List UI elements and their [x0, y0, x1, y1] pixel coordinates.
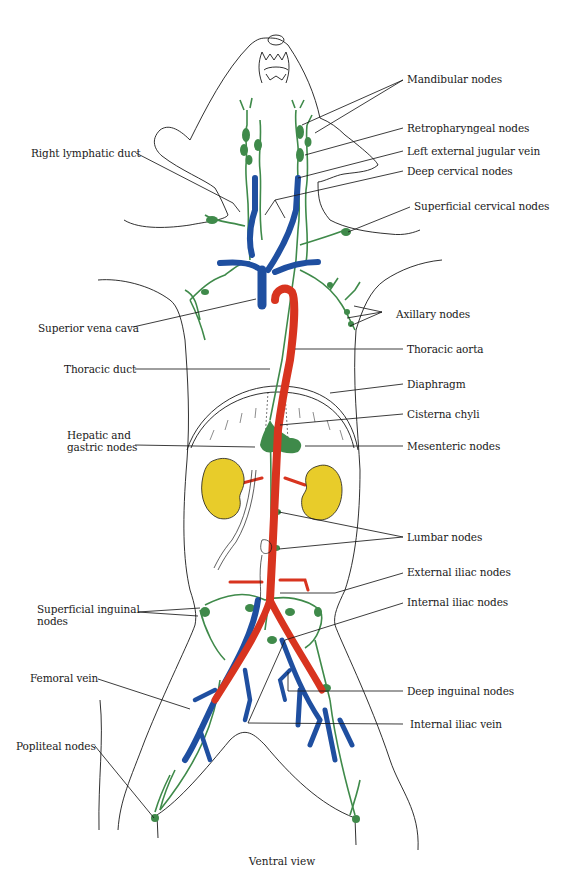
label-popliteal-nodes: Popliteal nodes	[16, 740, 96, 752]
label-superficial-inguinal-nodes-line1: Superficial inguinal	[37, 603, 140, 615]
figure-caption: Ventral view	[0, 855, 564, 867]
label-internal-iliac-vein: Internal iliac vein	[410, 718, 502, 730]
label-lumbar-nodes: Lumbar nodes	[407, 531, 482, 543]
label-deep-cervical-nodes: Deep cervical nodes	[407, 165, 513, 177]
label-retropharyngeal-nodes: Retropharyngeal nodes	[407, 122, 529, 134]
label-superficial-cervical-nodes: Superficial cervical nodes	[414, 200, 549, 212]
label-mandibular-nodes: Mandibular nodes	[407, 73, 502, 85]
label-femoral-vein: Femoral vein	[30, 672, 98, 684]
label-internal-iliac-nodes: Internal iliac nodes	[407, 596, 508, 608]
label-diaphragm: Diaphragm	[407, 378, 466, 390]
label-left-external-jugular-vein: Left external jugular vein	[407, 145, 540, 157]
label-mesenteric-nodes: Mesenteric nodes	[407, 440, 500, 452]
label-hepatic-gastric-nodes-line1: Hepatic and	[67, 429, 131, 441]
label-axillary-nodes: Axillary nodes	[396, 308, 470, 320]
label-hepatic-gastric-nodes-line2: gastric nodes	[67, 441, 137, 453]
label-cisterna-chyli: Cisterna chyli	[407, 408, 480, 420]
label-external-iliac-nodes: External iliac nodes	[407, 566, 511, 578]
lymphatic-system-diagram: Right lymphatic duct Superior vena cava …	[0, 0, 564, 882]
label-thoracic-aorta: Thoracic aorta	[407, 343, 484, 355]
label-superficial-inguinal-nodes-line2: nodes	[37, 615, 68, 627]
label-deep-inguinal-nodes: Deep inguinal nodes	[407, 685, 514, 697]
label-thoracic-duct: Thoracic duct	[64, 363, 136, 375]
label-superior-vena-cava: Superior vena cava	[38, 322, 139, 334]
label-right-lymphatic-duct: Right lymphatic duct	[31, 147, 141, 159]
